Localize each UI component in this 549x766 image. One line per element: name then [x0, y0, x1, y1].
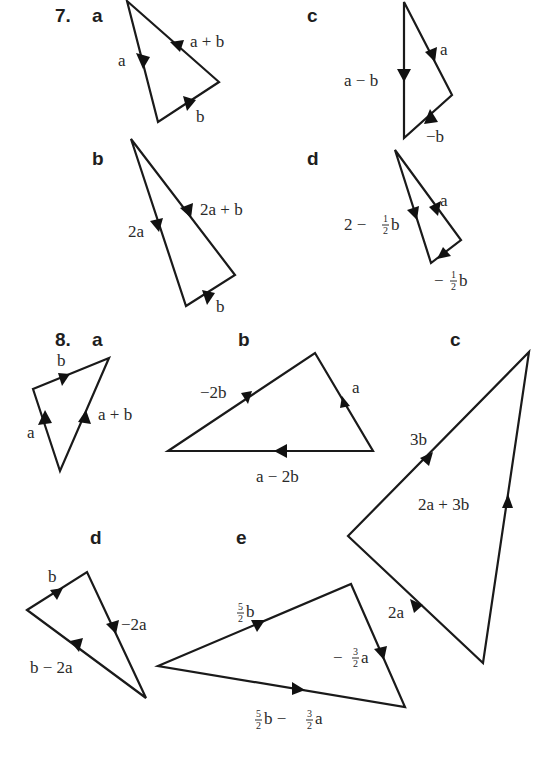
q7d-frac2-den: 2: [451, 281, 456, 292]
q8b-edge-a-minus-2b: a − 2b: [256, 467, 299, 486]
q8e-triangle: [158, 584, 405, 707]
q8a-edge-b: b: [57, 351, 66, 370]
q8c-label: c: [450, 329, 461, 350]
q8e-edge-a: a: [361, 648, 369, 667]
q7d-triangle: [395, 150, 461, 263]
vector-diagrams-figure: 7. a a a + b b c a − b a −b b 2a 2a + b …: [0, 0, 549, 766]
q8a-diagram: 8. a b a a + b: [27, 329, 132, 471]
q8d-diagram: d b −2a b − 2a: [27, 527, 147, 698]
q8a-edge-a-plus-b: a + b: [98, 405, 132, 424]
q8e-frac4-den: 2: [307, 720, 312, 731]
q8c-diagram: c 3b 2a + 3b 2a: [348, 329, 529, 663]
q7a-diagram: 7. a a a + b b: [55, 1, 224, 126]
q7c-edge-a: a: [440, 40, 448, 59]
q8e-frac2-num: 3: [353, 646, 358, 657]
q7b-edge-b: b: [216, 297, 225, 316]
q8e-frac3-den: 2: [256, 720, 261, 731]
q8e-frac2-den: 2: [353, 658, 358, 669]
q7c-label: c: [307, 5, 318, 26]
q8d-edge-b-minus-2a: b − 2a: [30, 658, 73, 677]
q7d-frac-den: 2: [383, 225, 388, 236]
arrow-icon: [374, 646, 387, 660]
q8b-edge-minus-2b: −2b: [200, 383, 227, 402]
q7d-frac-num: 1: [383, 213, 388, 224]
q7b-label: b: [92, 148, 104, 169]
q7a-label: a: [92, 5, 103, 26]
q8c-edge-2a: 2a: [388, 603, 405, 622]
q7d-edge-b: b: [391, 215, 400, 234]
q8d-edge-b: b: [48, 567, 57, 586]
q8c-edge-3b: 3b: [410, 430, 427, 449]
q8a-edge-a: a: [27, 423, 35, 442]
arrow-icon: [502, 494, 513, 508]
q7d-diagram: d a 2 − 1 2 b − 1 2 b: [307, 148, 468, 292]
q8a-label: a: [92, 329, 103, 350]
q8e-frac-den: 2: [238, 613, 243, 624]
arrow-icon: [292, 682, 305, 695]
q8e-frac-num: 5: [238, 601, 243, 612]
q7b-triangle: [131, 139, 235, 306]
arrow-icon: [274, 444, 287, 458]
q8e-diagram: e 5 2 b − 3 2 a 5 2 b − 3 2 a: [158, 527, 405, 731]
q8d-triangle: [27, 572, 146, 698]
q7a-edge-a: a: [118, 51, 126, 70]
q8e-edge-minus: −: [333, 648, 343, 667]
q8e-frac3-num: 5: [256, 708, 261, 719]
arrow-icon: [424, 109, 438, 124]
q8e-edge-b-minus: b −: [264, 709, 286, 728]
q8e-label: e: [236, 527, 247, 548]
q8d-edge-minus-2a: −2a: [121, 615, 147, 634]
q8e-edge-b: b: [246, 602, 255, 621]
q7d-label: d: [307, 148, 319, 169]
q8c-edge-2a-plus-3b: 2a + 3b: [418, 495, 469, 514]
q8d-label: d: [90, 527, 102, 548]
arrow-icon: [407, 206, 419, 220]
q7d-edge-minus: −: [434, 271, 444, 290]
arrow-icon: [58, 373, 70, 386]
q7d-edge-2-minus: 2 −: [344, 215, 366, 234]
arrow-icon: [106, 620, 119, 634]
q8b-label: b: [238, 329, 250, 350]
arrow-icon: [136, 53, 150, 69]
q8b-edge-a: a: [352, 378, 360, 397]
q8e-edge-a2: a: [315, 709, 323, 728]
q7c-edge-a-minus-b: a − b: [344, 71, 378, 90]
q8b-diagram: b −2b a a − 2b: [168, 329, 373, 486]
q7d-edge-b2: b: [459, 271, 468, 290]
q7-number: 7.: [55, 5, 71, 26]
q7a-edge-a-plus-b: a + b: [190, 32, 224, 51]
arrow-icon: [397, 69, 411, 82]
q7d-frac2-num: 1: [451, 269, 456, 280]
q7b-edge-2a: 2a: [128, 222, 145, 241]
arrow-icon: [425, 47, 437, 62]
q7b-edge-2a-plus-b: 2a + b: [200, 200, 243, 219]
q7b-diagram: b 2a 2a + b b: [92, 139, 243, 316]
q7d-edge-a: a: [440, 191, 448, 210]
q7c-edge-minus-b: −b: [426, 127, 444, 146]
q7c-diagram: c a − b a −b: [307, 2, 452, 146]
arrow-icon: [202, 290, 215, 305]
q7a-edge-b: b: [196, 107, 205, 126]
arrow-icon: [420, 452, 433, 466]
q8e-frac4-num: 3: [307, 708, 312, 719]
q8-number: 8.: [55, 329, 71, 350]
